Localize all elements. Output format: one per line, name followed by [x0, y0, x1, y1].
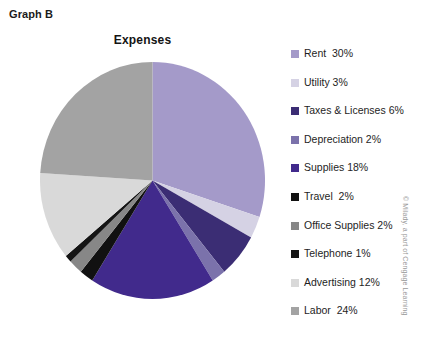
legend-swatch	[291, 250, 299, 258]
legend-swatch	[291, 164, 299, 172]
legend-item: Taxes & Licenses 6%	[291, 105, 411, 134]
legend-swatch	[291, 193, 299, 201]
legend-swatch	[291, 79, 299, 87]
legend-label: Office Supplies 2%	[304, 220, 393, 231]
legend-item: Utility 3%	[291, 77, 411, 106]
legend-label: Rent 30%	[304, 48, 353, 59]
legend-label: Travel 2%	[304, 191, 354, 202]
legend-swatch	[291, 50, 299, 58]
legend-label: Depreciation 2%	[304, 134, 381, 145]
legend-label: Taxes & Licenses 6%	[304, 105, 404, 116]
copyright-notice: © Milady, a part of Cengage Learning	[402, 196, 409, 346]
legend-label: Telephone 1%	[304, 248, 371, 259]
graph-label: Graph B	[9, 8, 53, 20]
legend-swatch	[291, 136, 299, 144]
legend-swatch	[291, 107, 299, 115]
legend-item: Labor 24%	[291, 305, 411, 334]
pie-chart	[40, 62, 265, 299]
legend-swatch	[291, 222, 299, 230]
pie-slice	[40, 62, 152, 181]
legend-swatch	[291, 279, 299, 287]
legend-swatch	[291, 307, 299, 315]
pie-chart-svg	[40, 62, 265, 299]
legend-item: Depreciation 2%	[291, 134, 411, 163]
legend-label: Supplies 18%	[304, 162, 368, 173]
legend-item: Advertising 12%	[291, 277, 411, 306]
pie-slice-group	[40, 62, 265, 299]
legend-item: Telephone 1%	[291, 248, 411, 277]
legend-label: Advertising 12%	[304, 277, 380, 288]
legend-label: Utility 3%	[304, 77, 348, 88]
legend-item: Rent 30%	[291, 48, 411, 77]
chart-legend: Rent 30%Utility 3%Taxes & Licenses 6%Dep…	[291, 48, 411, 334]
legend-label: Labor 24%	[304, 305, 358, 316]
chart-title: Expenses	[0, 33, 285, 47]
legend-item: Travel 2%	[291, 191, 411, 220]
legend-item: Supplies 18%	[291, 162, 411, 191]
legend-item: Office Supplies 2%	[291, 220, 411, 249]
